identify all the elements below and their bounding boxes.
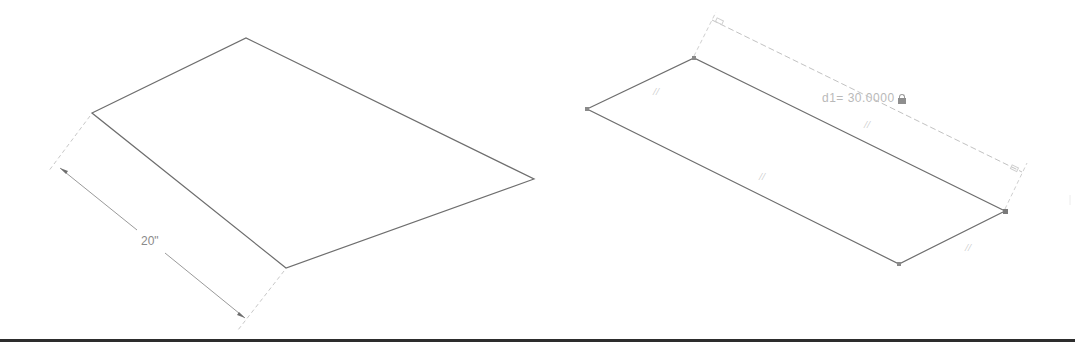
parallel-constraint-icon[interactable]: // — [965, 241, 971, 253]
vertex-grip[interactable] — [585, 107, 589, 111]
vertex-grip[interactable] — [692, 56, 696, 60]
dimension-line[interactable] — [60, 168, 137, 230]
sketch-canvas[interactable] — [0, 0, 1075, 345]
d1-value: d1= 30.0000 — [822, 91, 895, 105]
dimension-line[interactable] — [165, 253, 245, 318]
right-shape-outline[interactable] — [587, 58, 1005, 264]
dimension-label-20in[interactable]: 20" — [139, 234, 161, 248]
parallel-constraint-icon[interactable]: // — [759, 170, 765, 182]
parallel-constraint-icon[interactable]: // — [864, 118, 870, 130]
vertex-grip[interactable] — [897, 262, 901, 266]
dimension-grip[interactable] — [715, 18, 723, 25]
extension-line — [694, 12, 716, 56]
extension-line — [48, 116, 90, 172]
extension-line — [1005, 163, 1027, 209]
extension-line — [238, 271, 284, 330]
left-sketch[interactable] — [48, 38, 534, 330]
dimension-label-d1[interactable]: d1= 30.0000 — [822, 91, 906, 105]
lock-icon[interactable] — [898, 94, 906, 103]
parallel-constraint-icon[interactable]: // — [653, 85, 659, 97]
vertex-grip[interactable] — [1003, 209, 1008, 214]
bottom-divider — [0, 339, 1075, 342]
right-sketch[interactable] — [585, 12, 1027, 266]
